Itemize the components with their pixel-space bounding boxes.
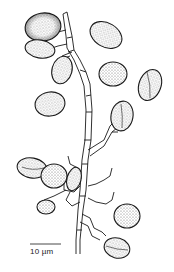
scale-bar-label: 10 µm [30,247,53,256]
specimen-illustration [0,0,174,272]
conidia [15,10,165,261]
